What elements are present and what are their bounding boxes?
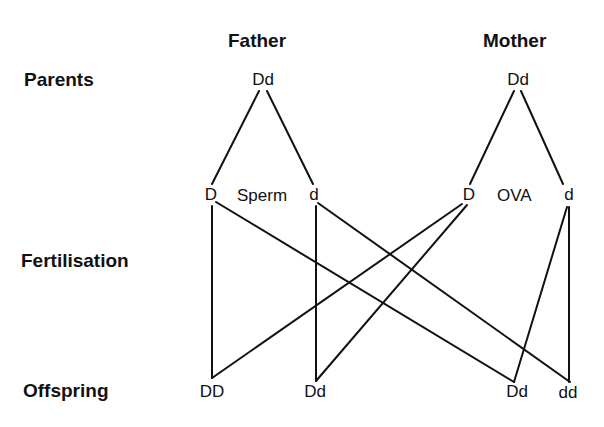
line-father-to-sperm-D xyxy=(212,91,259,184)
line-mother-to-ova-d xyxy=(521,91,563,184)
line-mother-to-ova-D xyxy=(470,91,514,184)
sperm-allele-d: d xyxy=(309,186,318,203)
monohybrid-cross-diagram: Father Mother Parents Fertilisation Offs… xyxy=(0,0,604,427)
row-label-parents: Parents xyxy=(24,70,94,89)
offspring-dd: dd xyxy=(559,384,578,401)
row-label-offspring: Offspring xyxy=(23,381,109,400)
ova-allele-D: D xyxy=(463,186,475,203)
offspring-Dd-1: Dd xyxy=(304,383,326,400)
offspring-Dd-2: Dd xyxy=(506,383,528,400)
offspring-DD: DD xyxy=(200,383,225,400)
line-father-to-sperm-d xyxy=(267,91,313,184)
ova-label: OVA xyxy=(497,187,532,204)
ova-allele-d: d xyxy=(564,186,573,203)
mother-genotype: Dd xyxy=(507,71,529,88)
line-sperm-D-to-Dd-3 xyxy=(216,202,514,382)
sperm-allele-D: D xyxy=(205,186,217,203)
line-ova-D-to-DD xyxy=(212,204,462,378)
column-header-mother: Mother xyxy=(483,31,546,50)
father-genotype: Dd xyxy=(252,71,274,88)
column-header-father: Father xyxy=(228,31,286,50)
row-label-fertilisation: Fertilisation xyxy=(21,251,129,270)
line-ova-d-to-Dd-3 xyxy=(514,207,567,382)
sperm-label: Sperm xyxy=(237,187,287,204)
connector-lines xyxy=(0,0,604,427)
line-sperm-d-to-dd xyxy=(318,203,570,382)
